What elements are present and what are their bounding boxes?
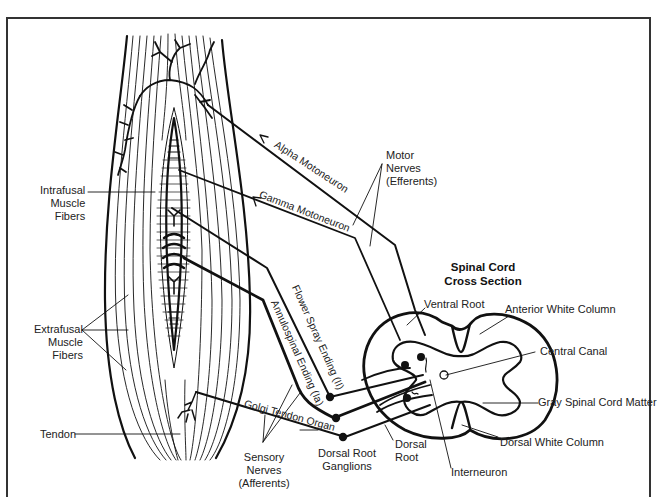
label-gray-spinal-cord-matter: Gray Spinal Cord Matter: [538, 396, 657, 409]
annulospiral-nerve: [184, 258, 425, 418]
label-line: Extrafusal: [34, 323, 83, 336]
label-motor-nerves: Motor Nerves (Efferents): [386, 149, 437, 188]
label-interneuron: Interneuron: [451, 466, 507, 479]
alpha-arrow: [260, 135, 268, 143]
label-ventral-root: Ventral Root: [424, 298, 485, 311]
label-line: Ganglions: [316, 460, 378, 473]
label-extrafusal-muscle-fibers: Extrafusal Muscle Fibers: [34, 323, 83, 362]
label-dorsal-root: Dorsal Root: [395, 438, 427, 464]
label-line: Nerves: [386, 162, 437, 175]
label-intrafusal-muscle-fibers: Intrafusal Muscle Fibers: [40, 184, 85, 223]
label-line: Dorsal: [395, 438, 427, 451]
label-line: Muscle: [40, 197, 85, 210]
label-line: Root: [395, 451, 427, 464]
label-line: Muscle: [34, 336, 83, 349]
label-line: Fibers: [40, 210, 85, 223]
label-dorsal-root-ganglions: Dorsal Root Ganglions: [316, 447, 378, 473]
label-line: Motor: [386, 149, 437, 162]
label-tendon: Tendon: [40, 428, 76, 441]
label-line: Nerves: [237, 464, 291, 477]
label-line: Sensory: [237, 451, 291, 464]
golgi-tendon-organ: [178, 392, 196, 422]
label-dorsal-white-column: Dorsal White Column: [500, 436, 604, 449]
label-central-canal: Central Canal: [540, 345, 607, 358]
label-line: Fibers: [34, 349, 83, 362]
label-line: (Afferents): [237, 477, 291, 490]
label-line: (Efferents): [386, 175, 437, 188]
title-spinal-cord-cross-section: Spinal Cord Cross Section: [438, 260, 528, 288]
label-line: Intrafusal: [40, 184, 85, 197]
label-anterior-white-column: Anterior White Column: [505, 303, 616, 316]
muscle-spindle: [157, 108, 190, 368]
label-sensory-nerves: Sensory Nerves (Afferents): [237, 451, 291, 490]
dorsal-root-ganglion-dots: [326, 353, 425, 441]
label-line: Dorsal Root: [316, 447, 378, 460]
title-line: Cross Section: [438, 274, 528, 288]
title-line: Spinal Cord: [438, 260, 528, 274]
extrafusal-fibers: [115, 34, 240, 460]
